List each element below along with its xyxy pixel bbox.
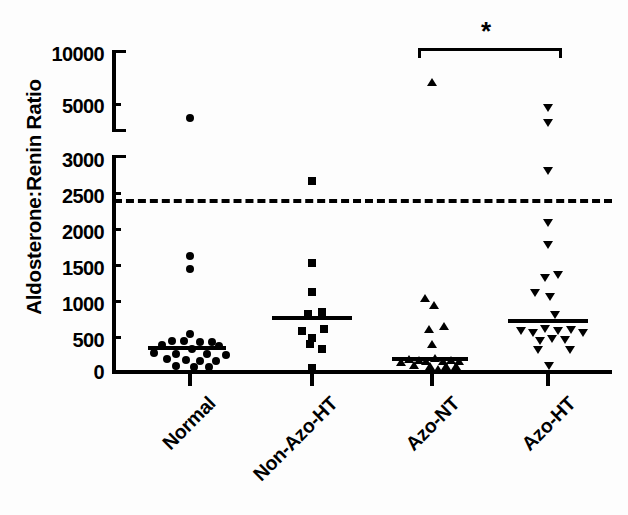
- data-point: [427, 78, 437, 86]
- data-point: [212, 357, 220, 365]
- data-point: [530, 289, 540, 297]
- data-point: [565, 346, 575, 354]
- data-point: [547, 335, 557, 343]
- data-point: [308, 259, 316, 267]
- data-point: [180, 337, 188, 345]
- data-point: [308, 288, 316, 296]
- data-point: [553, 327, 563, 335]
- data-point: [298, 327, 306, 335]
- data-point: [163, 355, 171, 363]
- median-line-normal: [148, 346, 226, 350]
- data-point: [528, 329, 538, 337]
- data-point: [553, 271, 563, 279]
- data-point: [318, 345, 326, 353]
- data-point: [451, 362, 461, 370]
- data-point: [540, 274, 550, 282]
- data-point: [560, 336, 570, 344]
- data-point: [182, 356, 190, 364]
- data-point: [543, 219, 553, 227]
- data-point: [543, 104, 553, 112]
- median-line-azo-nt: [392, 357, 468, 361]
- data-point: [308, 364, 316, 372]
- data-point: [190, 363, 198, 371]
- data-point: [186, 252, 194, 260]
- data-point: [308, 177, 316, 185]
- data-point: [533, 346, 543, 354]
- data-point: [186, 114, 194, 122]
- data-point: [186, 265, 194, 273]
- data-point: [543, 119, 553, 127]
- data-point: [318, 308, 326, 316]
- data-point: [203, 350, 211, 358]
- data-point: [168, 337, 176, 345]
- data-point: [543, 167, 553, 175]
- data-point: [424, 325, 434, 333]
- median-line-non-azo-ht: [272, 316, 352, 320]
- data-point: [578, 329, 588, 337]
- data-point: [196, 338, 204, 346]
- data-point: [535, 337, 545, 345]
- data-point: [306, 340, 314, 348]
- data-point: [320, 325, 328, 333]
- data-point: [186, 330, 194, 338]
- data-point: [172, 350, 180, 358]
- data-point: [540, 325, 550, 333]
- data-point: [150, 349, 158, 357]
- figure-canvas: Aldosterone:Renin Ratio 10000 5000 3000 …: [0, 0, 628, 515]
- data-point: [550, 311, 560, 319]
- data-point: [439, 322, 449, 330]
- data-point: [543, 241, 553, 249]
- data-point: [545, 293, 555, 301]
- data-point: [205, 363, 213, 371]
- data-point: [427, 340, 437, 348]
- data-point: [409, 361, 419, 369]
- data-point: [516, 327, 526, 335]
- data-point: [429, 301, 439, 309]
- data-point: [222, 351, 230, 359]
- data-point: [544, 362, 554, 370]
- data-point: [433, 365, 443, 373]
- data-point: [566, 326, 576, 334]
- median-line-azo-ht: [508, 319, 588, 323]
- data-point: [172, 362, 180, 370]
